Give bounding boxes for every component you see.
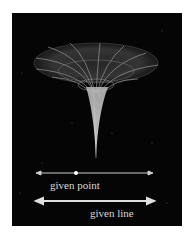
point-line-arrow	[36, 171, 153, 175]
funnel-stem	[86, 87, 108, 158]
given-point-label: given point	[50, 179, 100, 191]
given-line-label: given line	[90, 207, 134, 219]
given-line-arrow	[36, 198, 154, 204]
diagram-panel: given point given line	[12, 13, 182, 226]
given-point-marker	[74, 171, 78, 175]
funnel-surface-diagram	[12, 13, 182, 226]
